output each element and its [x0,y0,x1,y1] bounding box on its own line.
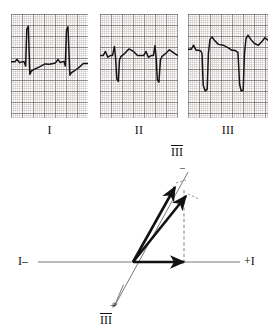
axis-label-lead-1-negative: I– [18,254,28,269]
construction-tick-1 [188,194,199,199]
mean-qrs-resultant-vector [133,196,186,262]
lead-3-positive-sign: + [110,300,116,311]
axis-label-lead-3-negative: III [171,145,183,160]
axis-label-lead-3-positive: III [100,313,112,328]
axis-label-lead-1-positive: +I [244,254,255,269]
lead-3-positive-text: III [100,313,112,327]
lead-3-negative-sign: – [180,162,185,173]
lead-3-component-vector [133,187,175,262]
vector-diagram-layer [0,0,274,333]
lead-3-negative-text: III [171,145,183,159]
ecg-axis-figure: I II III I– +I III – III + [0,0,274,333]
construction-tick-0 [176,180,186,183]
